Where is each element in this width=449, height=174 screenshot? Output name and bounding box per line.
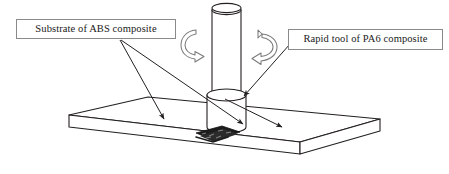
rotation-arrow-right-shape <box>252 34 277 65</box>
rotation-arrow-right <box>252 30 277 65</box>
tool-shank-top-face <box>212 3 241 12</box>
rotation-arrow-left <box>181 30 204 62</box>
callout-substrate-label: Substrate of ABS composite <box>35 24 156 35</box>
callout-tool[interactable]: Rapid tool of PA6 composite <box>288 29 443 50</box>
leader-tool-to-shoulder <box>244 44 290 96</box>
tool-shank <box>212 3 241 100</box>
tool-shoulder <box>207 89 246 133</box>
rotation-arrow-right-head <box>258 30 262 38</box>
callout-substrate[interactable]: Substrate of ABS composite <box>16 19 176 39</box>
rotation-arrow-left-shape <box>181 30 204 62</box>
tool-shank-body <box>212 10 241 101</box>
figure-root: Substrate of ABS composite Rapid tool of… <box>0 0 449 174</box>
callout-tool-label: Rapid tool of PA6 composite <box>303 34 427 45</box>
